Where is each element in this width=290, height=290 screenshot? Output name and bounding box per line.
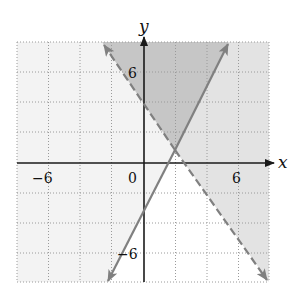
x-axis-label: x <box>278 152 288 172</box>
y-tick-neg6: −6 <box>117 246 138 262</box>
x-tick-pos6: 6 <box>232 170 241 186</box>
coordinate-graph: y x −6 0 6 6 −6 <box>0 0 290 290</box>
shaded-regions <box>17 42 269 282</box>
y-axis-label: y <box>138 16 149 36</box>
y-tick-pos6: 6 <box>128 65 137 81</box>
x-tick-neg6: −6 <box>32 170 53 186</box>
origin-label: 0 <box>128 170 137 186</box>
